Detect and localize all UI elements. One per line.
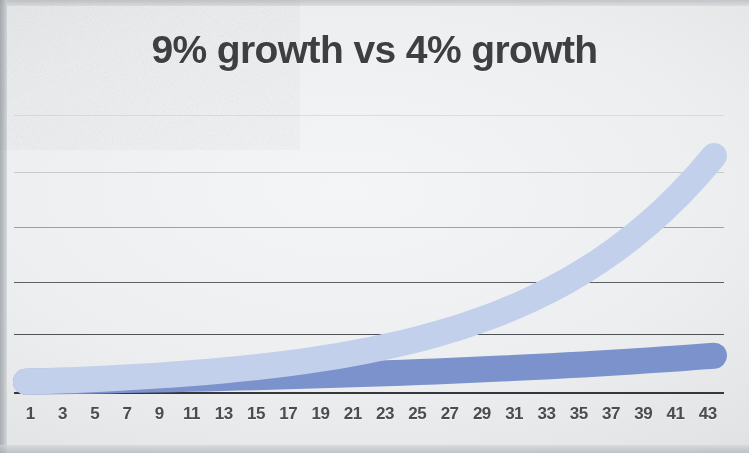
x-tick-5: 5	[79, 404, 111, 424]
photo-edge-top	[0, 0, 749, 6]
x-tick-25: 25	[401, 404, 433, 424]
x-tick-1: 1	[14, 404, 46, 424]
x-tick-11: 11	[175, 404, 207, 424]
x-tick-23: 23	[369, 404, 401, 424]
x-tick-41: 41	[659, 404, 691, 424]
series-line-9-percent	[26, 156, 714, 382]
x-tick-29: 29	[466, 404, 498, 424]
x-tick-13: 13	[208, 404, 240, 424]
x-tick-21: 21	[337, 404, 369, 424]
x-tick-33: 33	[530, 404, 562, 424]
growth-curves	[14, 96, 724, 396]
x-tick-3: 3	[46, 404, 78, 424]
x-tick-7: 7	[111, 404, 143, 424]
x-tick-31: 31	[498, 404, 530, 424]
x-tick-35: 35	[563, 404, 595, 424]
x-tick-19: 19	[304, 404, 336, 424]
x-tick-17: 17	[272, 404, 304, 424]
x-axis-tick-labels: 135791113151719212325272931333537394143	[14, 404, 724, 432]
x-tick-9: 9	[143, 404, 175, 424]
x-tick-27: 27	[433, 404, 465, 424]
x-tick-37: 37	[595, 404, 627, 424]
x-tick-39: 39	[627, 404, 659, 424]
chart-title: 9% growth vs 4% growth	[0, 28, 749, 72]
slide-photo: 9% growth vs 4% growth 13579111315171921…	[0, 0, 749, 453]
x-tick-43: 43	[692, 404, 724, 424]
plot-area	[14, 96, 724, 396]
photo-edge-bottom	[0, 445, 749, 453]
x-tick-15: 15	[240, 404, 272, 424]
